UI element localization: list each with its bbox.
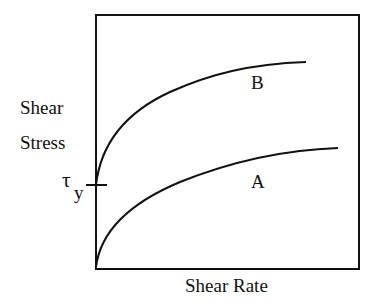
tau-symbol: τ [62, 170, 70, 191]
curve-a-label: A [251, 172, 265, 191]
tau-subscript: y [74, 183, 84, 202]
plot-frame [96, 15, 359, 269]
x-axis-label: Shear Rate [185, 276, 268, 295]
y-axis-label-line1: Shear [20, 98, 63, 117]
y-axis-label-line2: Stress [20, 133, 65, 152]
chart-plot [0, 0, 377, 308]
curve-a [96, 148, 338, 267]
curve-b-label: B [251, 73, 264, 92]
curve-b [96, 62, 306, 185]
